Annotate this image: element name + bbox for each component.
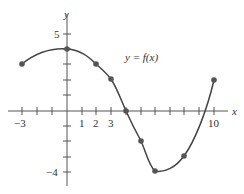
point-2-3 — [93, 61, 99, 67]
point-6-neg4 — [152, 168, 158, 174]
x-tick-10: 10 — [208, 117, 220, 129]
y-tick-5: 5 — [54, 28, 60, 40]
point-neg3-3 — [19, 61, 25, 67]
x-axis-label: x — [231, 105, 237, 117]
x-tick-1: 1 — [79, 117, 85, 129]
point-10-2 — [211, 77, 217, 83]
point-8-neg3 — [181, 153, 187, 159]
function-label: y = f(x) — [124, 51, 158, 64]
point-4-0 — [123, 108, 129, 114]
y-tick-neg4: −4 — [46, 166, 58, 178]
function-graph: y x 5 −4 −3 1 2 3 10 y = f(x) — [0, 0, 244, 194]
x-tick-neg3: −3 — [14, 117, 26, 129]
y-axis-label: y — [63, 8, 69, 20]
x-tick-2: 2 — [93, 117, 99, 129]
point-0-4 — [64, 46, 70, 52]
function-curve — [22, 49, 214, 172]
data-points — [19, 46, 217, 174]
x-tick-3: 3 — [108, 117, 114, 129]
point-3-2 — [108, 76, 114, 82]
point-5-neg2 — [138, 138, 144, 144]
